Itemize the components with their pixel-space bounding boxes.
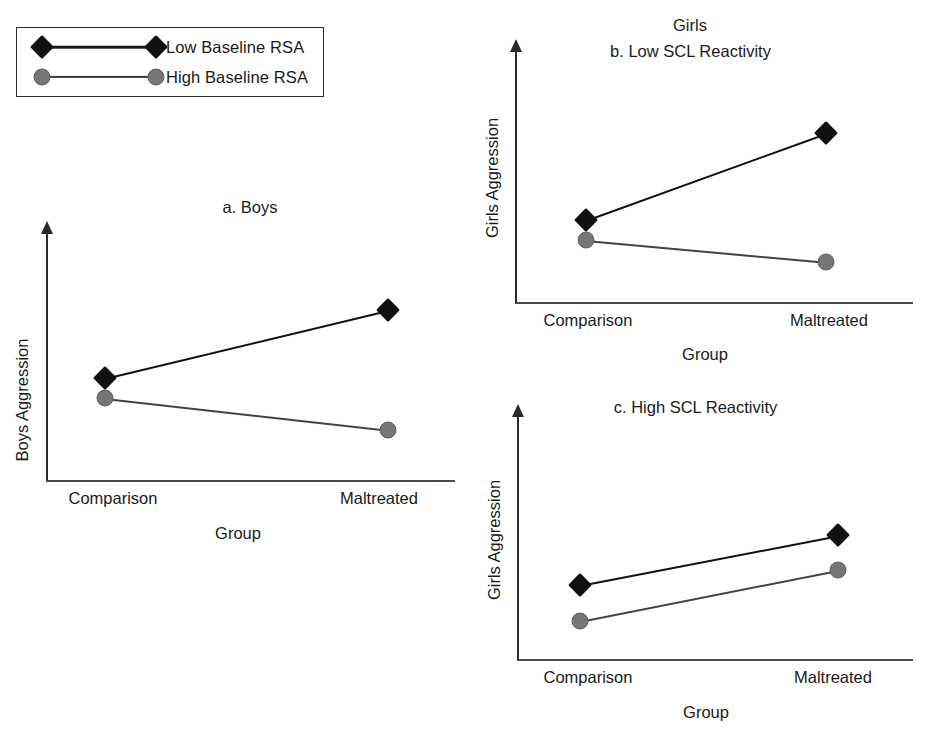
x-tick-comparison-b: Comparison <box>544 311 633 330</box>
x-tick-comparison-c: Comparison <box>544 668 633 687</box>
legend-label: Low Baseline RSA <box>166 38 304 57</box>
x-tick-maltreated-c: Maltreated <box>794 668 872 687</box>
y-axis-c <box>517 415 519 660</box>
x-tick-comparison-a: Comparison <box>69 489 158 508</box>
data-point-low-maltreated-a <box>376 298 400 322</box>
data-point-high-comparison-c <box>572 613 589 630</box>
circle-marker-icon <box>148 69 165 86</box>
data-point-low-maltreated-c <box>826 523 850 547</box>
diamond-marker-icon <box>30 35 54 59</box>
data-point-high-comparison-b <box>578 232 595 249</box>
legend-item-high-baseline-rsa: High Baseline RSA <box>17 62 323 92</box>
panel-title-c: c. High SCL Reactivity <box>608 398 783 417</box>
y-axis-label-c: Girls Aggression <box>485 480 504 600</box>
series-line-low-baseline-rsa-a <box>105 310 389 380</box>
x-axis-label-a: Group <box>215 524 261 543</box>
series-line-low-baseline-rsa-b <box>586 133 827 222</box>
data-point-high-maltreated-a <box>380 422 397 439</box>
legend-line <box>42 46 156 49</box>
legend: Low Baseline RSA High Baseline RSA <box>16 27 324 97</box>
x-tick-maltreated-a: Maltreated <box>340 489 418 508</box>
y-axis-b <box>515 50 517 303</box>
data-point-low-comparison-b <box>574 208 598 232</box>
data-point-high-comparison-a <box>97 390 114 407</box>
y-axis-label-a: Boys Aggression <box>13 339 32 462</box>
legend-label: High Baseline RSA <box>166 68 308 87</box>
x-axis-b <box>515 302 913 304</box>
legend-item-low-baseline-rsa: Low Baseline RSA <box>17 32 323 62</box>
diamond-marker-icon <box>144 35 168 59</box>
legend-sample-diamond <box>32 34 166 60</box>
panel-title-b: b. Low SCL Reactivity <box>608 42 773 61</box>
panel-title-a: a. Boys <box>160 198 340 217</box>
series-line-high-baseline-rsa-a <box>105 398 388 432</box>
y-axis-a <box>46 232 48 482</box>
data-point-high-maltreated-b <box>818 254 835 271</box>
group-title-girls: Girls <box>630 16 750 35</box>
x-tick-maltreated-b: Maltreated <box>790 311 868 330</box>
x-axis-c <box>517 659 913 661</box>
y-axis-label-b: Girls Aggression <box>483 118 502 238</box>
legend-sample-circle <box>32 64 166 90</box>
x-axis-label-b: Group <box>682 345 728 364</box>
series-line-high-baseline-rsa-b <box>586 240 826 264</box>
x-axis-a <box>46 480 455 482</box>
series-line-low-baseline-rsa-c <box>580 535 839 587</box>
data-point-low-maltreated-b <box>814 121 838 145</box>
data-point-high-maltreated-c <box>830 562 847 579</box>
data-point-low-comparison-a <box>93 366 117 390</box>
x-axis-label-c: Group <box>683 703 729 722</box>
legend-line <box>42 76 156 78</box>
circle-marker-icon <box>34 69 51 86</box>
data-point-low-comparison-c <box>568 573 592 597</box>
